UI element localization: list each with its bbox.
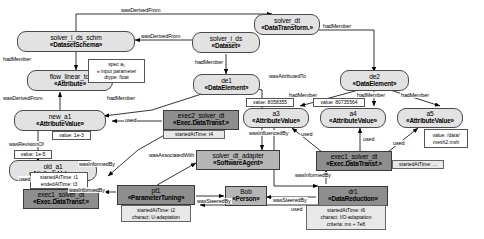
- edge-label-wassteeredby-1: wasSteeredBy: [196, 198, 232, 204]
- note-exec2-time: startedAtTime: t4: [163, 130, 225, 139]
- note-a3-value: value: 8058355: [246, 98, 294, 107]
- node-stereotype: «Person»: [232, 196, 260, 203]
- node-stereotype: «DatasetSchema»: [50, 42, 102, 49]
- diagram-canvas: solver_i_ds_schm «DatasetSchema» solver_…: [0, 0, 484, 239]
- node-a5[interactable]: a5 «AttributeValue»: [397, 108, 463, 128]
- note-line: charact: U-adaptation: [132, 214, 180, 221]
- node-new-a1[interactable]: new_a1 «AttributeValue»: [14, 110, 106, 131]
- edge-label-hadmember-7: hadMember: [400, 92, 430, 98]
- node-exec1-solver-dt-right[interactable]: exec1_solver_dt «Exec.DataTransf.»: [316, 151, 392, 171]
- edge-label-used-6: used: [290, 206, 303, 212]
- note-line: spec a₁: [108, 61, 124, 68]
- node-stereotype: «AttributeValue»: [36, 121, 84, 128]
- note-line: startedAtTime: t1: [40, 174, 78, 181]
- node-stereotype: «DataTransform.»: [261, 25, 313, 32]
- note-dr1-detail: startedAtTime: t6 charact: I/O-adaptatio…: [306, 205, 386, 230]
- note-line: value: 1e-3: [59, 132, 84, 139]
- node-a4[interactable]: a4 «AttributeValue»: [320, 108, 386, 128]
- edge-label-used-3: used: [300, 131, 313, 137]
- node-a3[interactable]: a3 «AttributeValue»: [243, 108, 309, 128]
- note-old-a1-value: value: 1e-5: [14, 150, 52, 159]
- node-dr1[interactable]: dr1 «DataReduction»: [318, 186, 388, 206]
- note-line: value: 80735564: [321, 99, 358, 106]
- edge-label-wasrevisionof: wasRevisionOf: [8, 141, 45, 147]
- node-stereotype: «Exec.DataTransf.»: [173, 120, 229, 127]
- note-line: value: 1e-5: [21, 151, 46, 158]
- node-stereotype: «AttributeValue»: [406, 118, 454, 125]
- edge-label-wasderivedfrom-1: wasDerivedFrom: [120, 7, 161, 13]
- edge-label-wasinformedby-3: wasInformedBy: [294, 172, 332, 178]
- edge-label-hadmember-1: hadMember: [2, 56, 32, 62]
- node-stereotype: «AttributeValue»: [329, 118, 377, 125]
- note-spec-a1: spec a₁ « input parameter dtype: float: [88, 59, 145, 83]
- note-pt1-detail: startedAtTime: t2 charact: U-adaptation: [121, 205, 191, 222]
- node-stereotype: «Exec.DataTransf.»: [326, 161, 382, 168]
- note-line: value: 8058355: [253, 99, 287, 106]
- node-exec2-solver-dt[interactable]: exec2_solver_dt «Exec.DataTransf.»: [163, 110, 239, 130]
- note-line: charact: I/O-adaptation: [321, 214, 372, 221]
- note-line: criteria: mx ÷ 7e8: [327, 221, 365, 228]
- edge-label-wasattributedto: wasAttributedTo: [268, 73, 307, 79]
- node-de2[interactable]: de2 «DataElement»: [340, 70, 409, 91]
- node-de1[interactable]: de1 «DataElement»: [193, 74, 260, 95]
- node-stereotype: «DataReduction»: [328, 196, 378, 203]
- node-stereotype: «AttributeValue»: [252, 118, 300, 125]
- note-new-a1-value: value: 1e-3: [52, 131, 91, 140]
- edge-label-hadmember-5: hadMember: [288, 92, 318, 98]
- node-stereotype: «SoftwareAgent»: [213, 160, 263, 167]
- node-solver-dt[interactable]: solver_dt «DataTransform.»: [254, 14, 320, 35]
- edge-label-wasinformedby-1: wasInformedBy: [78, 161, 116, 167]
- node-solver-i-ds[interactable]: solver_i_ds «Dataset»: [192, 32, 260, 53]
- edge-label-hadmember-3: hadMember: [322, 23, 352, 29]
- note-line: dtype: float: [104, 74, 128, 81]
- edge-label-used-4: used: [362, 136, 375, 142]
- note-line: « input parameter: [97, 68, 136, 75]
- edge-label-wassteeredby-2: wasSteeredBy: [272, 197, 308, 203]
- note-exec1-right-time: startedAtTime: ...: [392, 160, 444, 169]
- node-stereotype: «DataElement»: [353, 81, 397, 88]
- edge-label-wasassociatedwith: wasAssociatedWith: [148, 152, 195, 158]
- edge-label-wasinformedby-2: wasInformedBy: [68, 187, 106, 193]
- note-line: startedAtTime: ...: [399, 161, 437, 168]
- edge-label-wasderivedfrom-2: wasDerivedFrom: [140, 33, 181, 39]
- node-stereotype: «Attribute»: [54, 81, 86, 88]
- edge-label-hadmember-2: hadMember: [194, 59, 224, 65]
- edge-label-used-5: used: [392, 140, 405, 146]
- node-stereotype: «ParameterTuning»: [128, 195, 185, 202]
- note-line: startedAtTime: t4: [175, 131, 213, 138]
- node-stereotype: «DataElement»: [205, 85, 249, 92]
- note-line: mesh2.msh: [433, 139, 459, 146]
- node-stereotype: «Dataset»: [212, 43, 241, 50]
- edge-label-used-1: used: [124, 117, 137, 123]
- node-pt1[interactable]: pt1 «ParameterTuning»: [117, 185, 195, 205]
- edge-label-hadmember-6: hadMember: [356, 92, 386, 98]
- note-a5-value: value: /data/ mesh2.msh: [424, 129, 468, 148]
- note-line: startedAtTime: t2: [137, 207, 175, 214]
- node-solver-dt-adapter[interactable]: solver_dt_adapter «SoftwareAgent»: [196, 150, 280, 170]
- edge-label-used-2: used: [18, 176, 31, 182]
- note-a4-value: value: 80735564: [313, 98, 365, 107]
- edge-label-hadmember-4: hadMember: [106, 95, 136, 101]
- node-stereotype: «Exec.DataTransf.»: [33, 199, 89, 206]
- note-line: startedAtTime: t6: [327, 207, 365, 214]
- edge-label-wasinfluencedby: wasInfluencedBy: [248, 130, 289, 136]
- node-solver-i-ds-schm[interactable]: solver_i_ds_schm «DatasetSchema»: [17, 31, 135, 52]
- edge-label-wasderivedfrom-3: wasDerivedFrom: [2, 95, 43, 101]
- note-line: value: /data/: [432, 132, 459, 139]
